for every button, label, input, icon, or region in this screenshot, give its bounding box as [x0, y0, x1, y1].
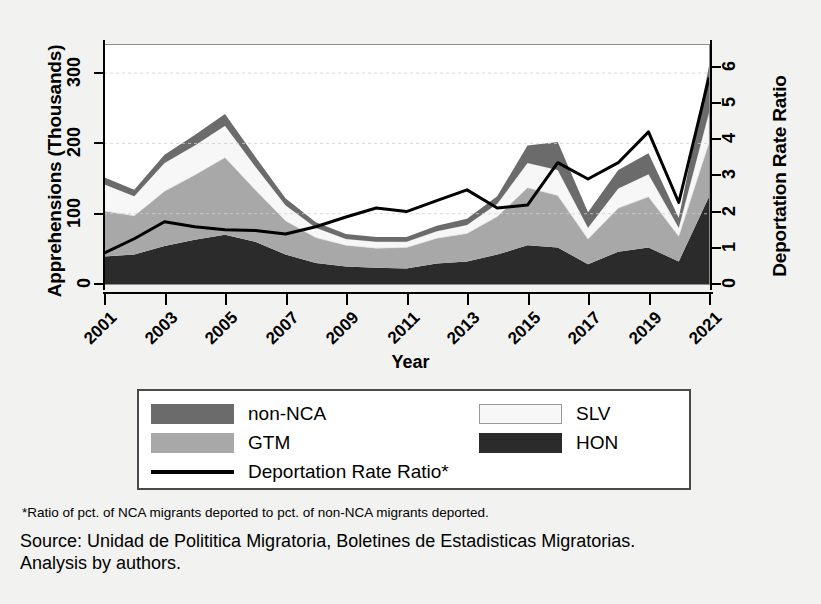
- footnote-text: *Ratio of pct. of NCA migrants deported …: [22, 505, 489, 520]
- x-tick-mark: [709, 294, 711, 305]
- x-tick-mark: [649, 294, 651, 305]
- legend-item-non-nca[interactable]: non-NCA: [151, 399, 449, 428]
- tick-mark: [94, 283, 104, 285]
- legend-label: GTM: [248, 432, 290, 454]
- legend-column-right: SLVHON: [479, 399, 618, 457]
- legend-label: Deportation Rate Ratio*: [248, 461, 449, 483]
- x-tick-label: 2007: [262, 308, 303, 349]
- plot-area: [103, 44, 710, 285]
- y-tick-label-right: 0: [719, 278, 740, 288]
- legend-item-deportation-rate-ratio[interactable]: Deportation Rate Ratio*: [151, 457, 449, 486]
- x-tick-label: 2021: [685, 308, 726, 349]
- y-tick-label-right: 6: [719, 61, 740, 71]
- y-tick-label-left: 0: [73, 278, 94, 288]
- legend-swatch-line: [151, 470, 234, 474]
- y-axis-right-title: Deportation Rate Ratio: [769, 26, 791, 326]
- y-tick-label-right: 3: [719, 169, 740, 179]
- x-tick-mark: [467, 294, 469, 305]
- x-tick-label: 2003: [141, 308, 182, 349]
- x-tick-mark: [225, 294, 227, 305]
- x-axis-ticks: 2001200320052007200920112013201520172019…: [103, 294, 713, 308]
- y-axis-left: 0100200300: [95, 40, 105, 290]
- x-tick-label: 2019: [625, 308, 666, 349]
- y-tick-label-right: 1: [719, 242, 740, 252]
- legend-swatch-fill: [479, 404, 562, 424]
- y-tick-label-right: 2: [719, 206, 740, 216]
- y-axis-right: 0123456: [710, 40, 722, 290]
- tick-mark: [94, 72, 104, 74]
- tick-mark: [94, 213, 104, 215]
- tick-mark: [94, 142, 104, 144]
- legend-item-hon[interactable]: HON: [479, 428, 618, 457]
- legend-swatch-fill: [151, 404, 234, 424]
- chart-container: Apprehensions (Thousands) Deportation Ra…: [0, 0, 821, 380]
- x-tick-label: 2009: [322, 308, 363, 349]
- x-tick-label: 2005: [201, 308, 242, 349]
- x-tick-mark: [165, 294, 167, 305]
- y-tick-label-right: 5: [719, 97, 740, 107]
- y-tick-label-left: 200: [63, 127, 84, 157]
- x-tick-mark: [588, 294, 590, 305]
- legend-label: HON: [576, 432, 618, 454]
- legend-swatch-fill: [479, 433, 562, 453]
- legend-item-slv[interactable]: SLV: [479, 399, 618, 428]
- y-tick-label-left: 300: [63, 57, 84, 87]
- x-tick-mark: [286, 294, 288, 305]
- x-tick-label: 2011: [383, 308, 423, 348]
- legend-label: SLV: [576, 403, 611, 425]
- x-tick-mark: [407, 294, 409, 305]
- x-tick-label: 2015: [504, 308, 545, 349]
- x-tick-mark: [528, 294, 530, 305]
- y-tick-label-right: 4: [719, 133, 740, 143]
- y-axis-right-line: [710, 40, 712, 290]
- x-axis-title: Year: [0, 352, 821, 373]
- x-tick-label: 2013: [443, 308, 484, 349]
- source-line-1: Source: Unidad de Polititica Migratoria,…: [20, 531, 800, 553]
- source-text: Source: Unidad de Polititica Migratoria,…: [20, 531, 800, 575]
- x-tick-label: 2017: [564, 308, 605, 349]
- x-tick-label: 2001: [80, 308, 121, 349]
- stacked-area-plot: [104, 45, 709, 284]
- legend-column-left: non-NCAGTMDeportation Rate Ratio*: [151, 399, 449, 486]
- legend-item-gtm[interactable]: GTM: [151, 428, 449, 457]
- y-tick-label-left: 100: [63, 198, 84, 228]
- x-tick-mark: [104, 294, 106, 305]
- chart-page: Apprehensions (Thousands) Deportation Ra…: [0, 0, 821, 604]
- legend-label: non-NCA: [248, 403, 326, 425]
- chart-legend: non-NCAGTMDeportation Rate Ratio* SLVHON: [137, 389, 691, 490]
- y-axis-left-line: [103, 40, 105, 290]
- x-tick-mark: [346, 294, 348, 305]
- source-line-2: Analysis by authors.: [20, 553, 800, 575]
- legend-swatch-fill: [151, 433, 234, 453]
